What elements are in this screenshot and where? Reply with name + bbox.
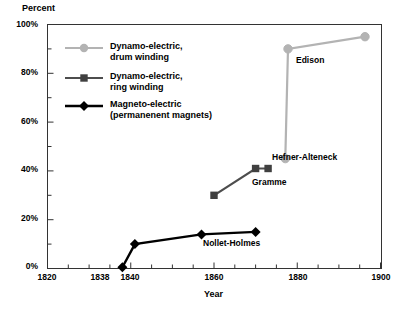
data-point-marker [251,227,261,237]
legend-item-drum-winding: Dynamo-electric, drum winding [110,41,183,63]
annotation-nollet-holmes: Nollet-Holmes [203,238,260,248]
legend-item-magneto-electric: Magneto-electric (permanenent magnets) [110,99,212,121]
data-point-marker [284,45,292,53]
data-point-marker [252,165,259,172]
legend-label-line2: ring winding [110,82,183,93]
legend-label-line1: Dynamo-electric, [110,71,183,82]
plot-frame [48,25,382,269]
data-point-marker [361,33,369,41]
legend-label-line2: drum winding [110,52,183,63]
chart-container: Percent Year 100% 80% 60% 40% 20% 0% 182… [0,0,397,309]
y-minor-ticks [48,49,52,244]
legend-marker-drum-winding [65,44,103,52]
x-major-ticks [48,263,381,269]
annotation-edison: Edison [296,55,324,65]
series-dynamo-drum-winding [281,33,369,163]
legend-label-line1: Magneto-electric [110,99,212,110]
legend-item-ring-winding: Dynamo-electric, ring winding [110,71,183,93]
legend-label-line2: (permanenent magnets) [110,110,212,121]
annotation-gramme: Gramme [252,177,287,187]
data-point-marker [130,239,140,249]
plot-svg [0,0,397,309]
legend-label-line1: Dynamo-electric, [110,41,183,52]
annotation-hefner-alteneck: Hefner-Alteneck [272,152,337,162]
legend-marker-ring-winding [65,74,103,81]
legend-marker-magneto-electric [65,101,103,111]
series-magneto-electric [117,227,260,272]
data-point-marker [210,192,217,199]
data-point-marker [117,262,127,272]
data-point-marker [264,165,271,172]
